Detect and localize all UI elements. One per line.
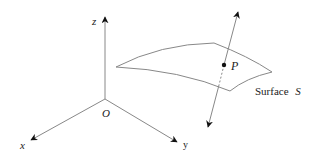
x-axis-label: x xyxy=(19,139,25,151)
coordinate-axes xyxy=(31,17,177,142)
y-axis-label: y xyxy=(183,139,188,150)
normal-line-upper xyxy=(224,12,238,65)
surface-label: Surface S xyxy=(255,85,301,97)
point-p-label: P xyxy=(230,59,239,73)
x-axis xyxy=(31,99,105,140)
z-axis-label: z xyxy=(91,15,97,27)
surface-label-symbol: S xyxy=(295,85,301,97)
surface-label-prefix: Surface xyxy=(255,85,289,97)
surface-patch xyxy=(116,43,272,91)
y-axis xyxy=(105,99,177,142)
normal-line-hidden xyxy=(219,65,224,85)
origin-label: O xyxy=(102,107,110,119)
normal-line-lower xyxy=(208,85,219,127)
diagram-canvas: z x y O P Surface S xyxy=(0,0,322,157)
point-p xyxy=(222,63,226,67)
